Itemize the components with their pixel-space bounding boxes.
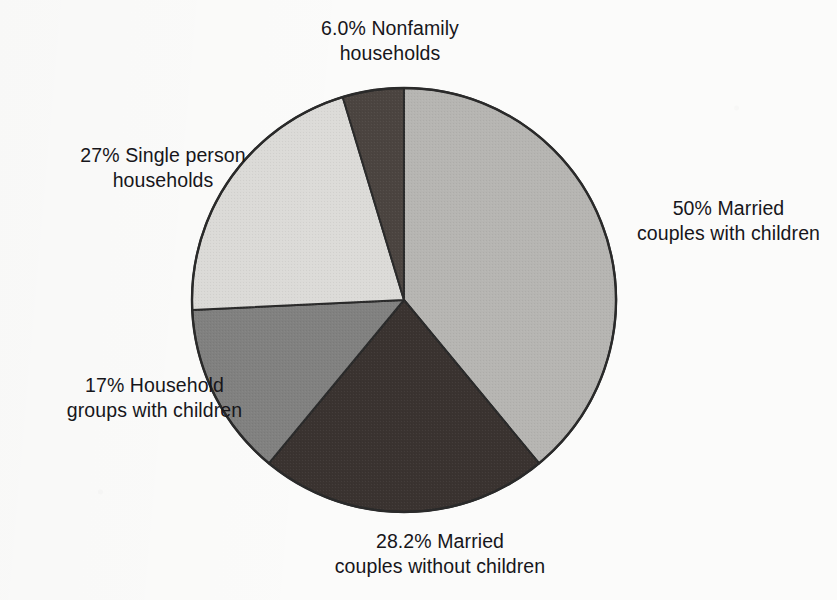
- slice-label-single-line1: 27% Single person: [28, 143, 298, 168]
- slice-label-household-groups-with-children: 17% Household groups with children: [12, 373, 297, 423]
- pie-chart-canvas: [0, 0, 837, 600]
- slice-label-nonfamily-line1: 6.0% Nonfamily: [240, 16, 540, 41]
- slice-label-single-person-households: 27% Single person households: [28, 143, 298, 193]
- slice-label-nonfamily-line2: households: [240, 41, 540, 66]
- slice-label-married-without-line2: couples without children: [290, 554, 590, 579]
- slice-label-married-with-line1: 50% Married: [620, 196, 837, 221]
- slice-label-groups-line2: groups with children: [12, 398, 297, 423]
- slice-label-married-without-line1: 28.2% Married: [290, 529, 590, 554]
- slice-label-groups-line1: 17% Household: [12, 373, 297, 398]
- slice-label-single-line2: households: [28, 168, 298, 193]
- slice-label-married-couples-without-children: 28.2% Married couples without children: [290, 529, 590, 579]
- slice-label-nonfamily-households: 6.0% Nonfamily households: [240, 16, 540, 66]
- slice-label-married-couples-with-children: 50% Married couples with children: [620, 196, 837, 246]
- pie-chart-figure: 6.0% Nonfamily households 27% Single per…: [0, 0, 837, 600]
- slice-label-married-with-line2: couples with children: [620, 221, 837, 246]
